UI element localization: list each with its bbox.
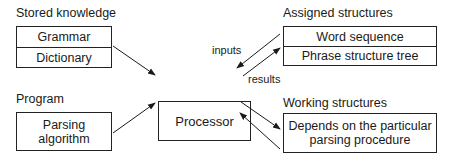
- arrow-knowledge-to-processor: [113, 46, 155, 75]
- arrow-program-to-processor: [113, 103, 155, 133]
- arrow-working-to-processor: [240, 113, 280, 149]
- arrow-inputs: [237, 34, 280, 68]
- arrows-layer: [0, 0, 450, 161]
- arrow-processor-to-working: [241, 102, 280, 129]
- arrow-results: [243, 48, 280, 76]
